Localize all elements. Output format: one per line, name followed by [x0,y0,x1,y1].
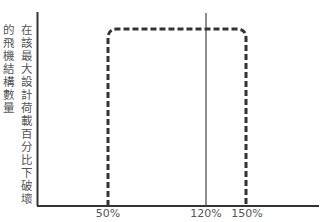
chart-plot-area [0,0,322,222]
x-tick-50: 50% [96,207,120,220]
dashed-failure-curve [108,29,246,206]
x-tick-120: 120% [190,207,221,220]
x-tick-150: 150% [231,207,262,220]
